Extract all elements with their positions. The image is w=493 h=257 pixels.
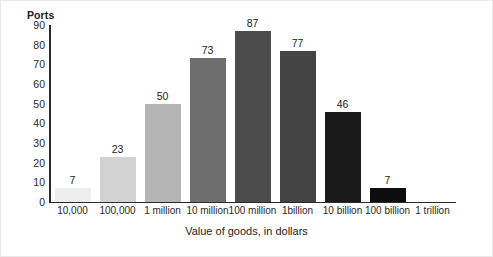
x-axis-tick-label: 100 billion (365, 205, 410, 216)
y-axis-tick-label: 0 (39, 196, 45, 208)
bar-value-label: 46 (337, 98, 349, 110)
x-axis-tick-labels: 10,000100,0001 million10 million100 mill… (50, 205, 455, 221)
bar (145, 104, 181, 202)
bar-value-label: 73 (202, 44, 214, 56)
bar (280, 51, 316, 202)
bar-value-label: 7 (70, 174, 76, 186)
x-axis-tick-label: 10 million (186, 205, 228, 216)
x-axis-tick-label: 100 million (229, 205, 277, 216)
x-axis-title: Value of goods, in dollars (1, 225, 492, 237)
bar-value-label: 7 (385, 174, 391, 186)
bar-value-label: 77 (292, 37, 304, 49)
bar (190, 58, 226, 202)
x-axis-tick-label: 1 million (144, 205, 181, 216)
bar-value-label: 87 (247, 17, 259, 29)
bar-value-label: 23 (112, 143, 124, 155)
y-axis-tick-label: 30 (33, 137, 45, 149)
x-axis-tick-label: 1billion (282, 205, 313, 216)
y-axis-tick-label: 80 (33, 39, 45, 51)
x-axis-tick-label: 10,000 (57, 205, 88, 216)
y-axis-tick-label: 20 (33, 157, 45, 169)
bar (100, 157, 136, 202)
y-axis-tick-label: 70 (33, 58, 45, 70)
y-axis-tick-labels: 0102030405060708090 (13, 25, 45, 202)
y-axis-tick-label: 40 (33, 117, 45, 129)
x-axis-tick-label: 10 billion (323, 205, 362, 216)
bar-chart-figure: Ports 0102030405060708090 72350738777467… (0, 0, 493, 257)
y-axis-tick-label: 10 (33, 176, 45, 188)
bar (55, 188, 91, 202)
x-axis-tick-label: 1 trillion (415, 205, 449, 216)
bar-value-label: 50 (157, 90, 169, 102)
bar (325, 112, 361, 202)
y-axis-tick-label: 50 (33, 98, 45, 110)
x-axis-tick-label: 100,000 (99, 205, 135, 216)
x-axis-line (49, 202, 456, 204)
y-axis-tick-label: 90 (33, 19, 45, 31)
bar (235, 31, 271, 202)
y-axis-tick-label: 60 (33, 78, 45, 90)
bar (370, 188, 406, 202)
plot-area: 72350738777467 (50, 25, 455, 202)
